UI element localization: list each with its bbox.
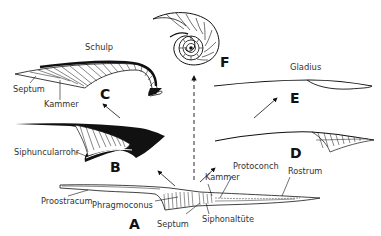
arrow-to-c [103,104,120,118]
label-a-proostracum: Proostracum [41,196,93,206]
label-c-kammer: Kammer [44,99,79,109]
diagram-canvas: F Schulp Septum Kammer C [0,0,381,236]
figure-letter-d: D [290,145,302,161]
label-c-septum: Septum [13,84,45,94]
schulp-c [15,62,162,100]
label-a-kammer: Kammer [205,172,240,182]
label-a-phragmoconus: Phragmoconus [92,200,153,210]
label-a-rostrum: Rostrum [288,166,322,176]
title-gladius: Gladius [290,62,321,72]
figure-letter-e: E [290,90,300,106]
figure-letter-a: A [129,216,140,232]
arrow-to-e [254,98,277,118]
title-schulp: Schulp [85,42,113,52]
label-a-siphonaltute: Siphonaltüte [202,214,254,224]
label-b-siphuncularrohr: Siphuncularrohr [14,147,80,157]
label-a-septum: Septum [157,219,189,229]
gladius-e [214,80,372,89]
nautilus-shell-f [153,13,219,65]
figure-letter-c: C [100,86,110,102]
arrow-to-b [158,171,175,186]
figure-letter-b: B [110,159,121,175]
label-a-protoconch: Protoconch [233,161,279,171]
figure-letter-f: F [220,54,230,70]
